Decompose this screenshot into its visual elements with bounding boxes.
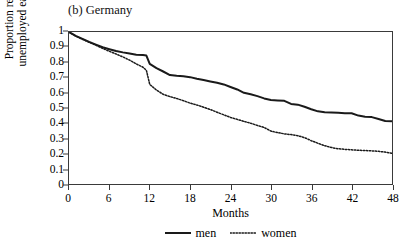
y-tick-label: 0.6 — [50, 87, 64, 99]
panel-title: (b) Germany — [68, 3, 132, 17]
y-tick-label: 0.9 — [50, 41, 64, 53]
x-axis-tick-labels: 0612182430364248 — [68, 191, 393, 207]
legend-label: women — [261, 226, 296, 241]
legend-swatch-dotted — [230, 229, 256, 237]
x-tick-mark — [190, 185, 191, 190]
y-tick-label: 0.1 — [50, 164, 64, 176]
y-axis-title-line-2: unemployed each month — [16, 0, 29, 67]
y-tick-label: 0.7 — [50, 71, 64, 83]
x-axis-title: Months — [68, 206, 393, 220]
legend-item-women[interactable]: women — [230, 226, 296, 241]
y-tick-label: 0.4 — [50, 118, 64, 130]
y-axis-tick-labels: 00.10.20.30.40.50.60.70.80.91 — [40, 31, 64, 185]
x-tick-label: 36 — [306, 191, 318, 205]
y-axis-title-line-1: Proportion remaining — [3, 0, 16, 59]
legend-label: men — [196, 226, 217, 241]
x-tick-mark — [393, 185, 394, 190]
x-tick-label: 0 — [65, 191, 71, 205]
x-tick-mark — [68, 185, 69, 190]
y-tick-label: 0.5 — [50, 102, 64, 114]
legend-item-men[interactable]: men — [165, 226, 217, 241]
plot-lines — [69, 32, 392, 184]
x-tick-label: 48 — [387, 191, 399, 205]
plot-area — [68, 31, 393, 185]
y-axis-title: Proportion remaining unemployed each mon… — [0, 0, 32, 87]
y-tick-label: 0.3 — [50, 133, 64, 145]
x-tick-label: 24 — [225, 191, 237, 205]
x-tick-mark — [271, 185, 272, 190]
x-tick-label: 42 — [347, 191, 359, 205]
chart-figure: (b) Germany Proportion remaining unemplo… — [0, 0, 413, 246]
x-tick-mark — [231, 185, 232, 190]
x-tick-label: 12 — [144, 191, 156, 205]
x-tick-mark — [109, 185, 110, 190]
x-tick-mark — [149, 185, 150, 190]
chart-legend: menwomen — [68, 224, 393, 242]
y-tick-label: 0.8 — [50, 56, 64, 68]
y-tick-label: 0.2 — [50, 148, 64, 160]
series-line-men — [69, 32, 392, 121]
series-line-women — [69, 32, 392, 153]
x-tick-mark — [312, 185, 313, 190]
legend-swatch-solid — [165, 229, 191, 237]
x-tick-label: 30 — [265, 191, 277, 205]
x-tick-label: 6 — [106, 191, 112, 205]
x-tick-label: 18 — [184, 191, 196, 205]
x-tick-mark — [352, 185, 353, 190]
x-axis-tick-marks — [68, 185, 393, 190]
